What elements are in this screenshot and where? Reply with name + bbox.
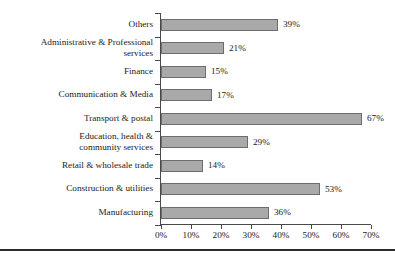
bar <box>161 136 248 148</box>
bar-row: Others39% <box>0 13 395 37</box>
bar-row: Construction & utilities53% <box>0 178 395 202</box>
category-label: Manufacturing <box>7 207 153 218</box>
plot-area: Others39%Administrative & Professional s… <box>0 0 395 258</box>
y-axis-tick <box>155 60 161 61</box>
category-label: Retail & wholesale trade <box>7 160 153 171</box>
y-axis-tick <box>155 13 161 14</box>
x-axis-tick <box>281 225 282 229</box>
x-axis-tick <box>221 225 222 229</box>
y-axis-tick <box>155 37 161 38</box>
bar-value-label: 53% <box>325 182 342 196</box>
bar-value-label: 29% <box>253 135 270 149</box>
category-label: Finance <box>7 66 153 77</box>
bar-track <box>161 131 248 155</box>
bar <box>161 207 269 219</box>
bar-value-label: 67% <box>367 111 384 125</box>
x-axis-tick <box>311 225 312 229</box>
bar-track <box>161 37 224 61</box>
bar-row: Retail & wholesale trade14% <box>0 154 395 178</box>
bar-track <box>161 201 269 225</box>
bar <box>161 160 203 172</box>
x-axis-tick <box>371 225 372 229</box>
category-label: Education, health & community services <box>7 131 153 152</box>
category-label: Construction & utilities <box>7 183 153 194</box>
bar <box>161 66 206 78</box>
y-axis-tick <box>155 107 161 108</box>
bar-track <box>161 178 320 202</box>
bar-row: Manufacturing36% <box>0 201 395 225</box>
category-label: Others <box>7 19 153 30</box>
bar <box>161 113 362 125</box>
category-label: Communication & Media <box>7 89 153 100</box>
bar-value-label: 39% <box>283 17 300 31</box>
y-axis-tick <box>155 201 161 202</box>
x-axis-tick <box>191 225 192 229</box>
bar-row: Finance15% <box>0 60 395 84</box>
x-axis-tick <box>251 225 252 229</box>
bar-value-label: 17% <box>217 88 234 102</box>
y-axis-tick <box>155 178 161 179</box>
bar-value-label: 21% <box>229 41 246 55</box>
category-label: Transport & postal <box>7 113 153 124</box>
y-axis-tick <box>155 154 161 155</box>
y-axis-tick <box>155 131 161 132</box>
horizontal-bar-chart: Others39%Administrative & Professional s… <box>0 0 395 258</box>
x-axis-tick <box>161 225 162 229</box>
bottom-divider <box>0 249 395 251</box>
bar-track <box>161 107 362 131</box>
bar-row: Transport & postal67% <box>0 107 395 131</box>
y-axis-tick <box>155 84 161 85</box>
bar-track <box>161 84 212 108</box>
bar <box>161 19 278 31</box>
category-label: Administrative & Professional services <box>7 37 153 58</box>
bar-row: Communication & Media17% <box>0 84 395 108</box>
bar-value-label: 15% <box>211 64 228 78</box>
bar-row: Education, health & community services29… <box>0 131 395 155</box>
bar-track <box>161 60 206 84</box>
bar-value-label: 14% <box>208 158 225 172</box>
x-axis-tick <box>341 225 342 229</box>
bar-row: Administrative & Professional services21… <box>0 37 395 61</box>
x-axis-tick-label: 70% <box>351 230 391 240</box>
bar <box>161 42 224 54</box>
bar-track <box>161 13 278 37</box>
bar <box>161 89 212 101</box>
bar-track <box>161 154 203 178</box>
bar-value-label: 36% <box>274 205 291 219</box>
bar <box>161 183 320 195</box>
